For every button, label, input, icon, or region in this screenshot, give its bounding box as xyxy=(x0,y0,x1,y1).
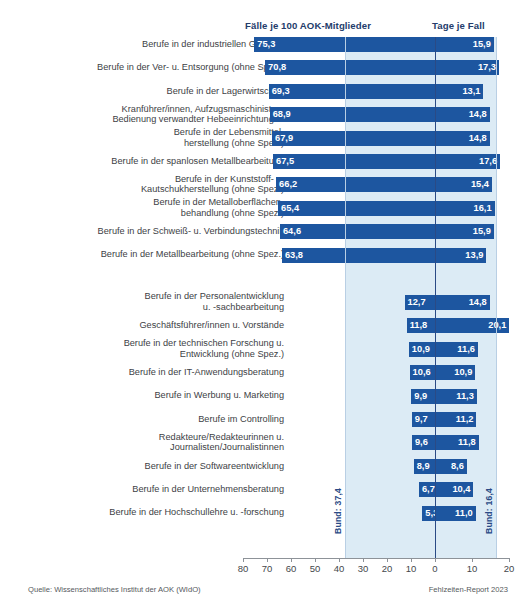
bar-value-tage: 10,4 xyxy=(452,483,470,496)
bar-value-tage: 17,3 xyxy=(478,61,496,74)
bar-value-tage: 11,2 xyxy=(456,413,474,426)
bar-value-faelle: 69,3 xyxy=(272,85,290,98)
category-label: Berufe in der Hochschullehre u. -forschu… xyxy=(109,507,284,518)
axis-tick xyxy=(291,558,292,562)
bar-value-faelle: 11,8 xyxy=(410,319,428,332)
axis-tick-label: 70 xyxy=(262,563,273,574)
category-label: Berufe in der Metalloberflächen- behandl… xyxy=(153,197,284,218)
axis-tick xyxy=(472,558,473,562)
bar-faelle xyxy=(282,248,435,263)
x-axis-line xyxy=(243,558,509,559)
header-left-title: Fälle je 100 AOK-Mitglieder xyxy=(245,20,371,31)
bar-value-faelle: 63,8 xyxy=(285,249,303,262)
bar-value-faelle: 64,6 xyxy=(283,225,301,238)
bar-value-faelle: 70,8 xyxy=(268,61,286,74)
axis-tick-label: 20 xyxy=(382,563,393,574)
bund-tage-label: Bund: 16,4 xyxy=(484,488,494,534)
axis-tick xyxy=(387,558,388,562)
bar-value-faelle: 8,9 xyxy=(417,460,430,473)
bar-value-faelle: 10,9 xyxy=(412,343,430,356)
bund-faelle-line xyxy=(345,37,346,558)
bar-value-faelle: 9,6 xyxy=(415,436,428,449)
axis-tick-label: 30 xyxy=(358,563,369,574)
bar-value-tage: 13,1 xyxy=(462,85,480,98)
axis-tick xyxy=(267,558,268,562)
bar-value-tage: 11,6 xyxy=(457,343,475,356)
category-label: Berufe in der Lebensmittel- herstellung … xyxy=(174,127,284,148)
category-label: Berufe in der Metallbearbeitung (ohne Sp… xyxy=(101,249,284,260)
category-label: Berufe in der Personalentwicklung u. -sa… xyxy=(145,291,284,312)
bar-value-faelle: 67,9 xyxy=(275,132,293,145)
bar-value-faelle: 65,4 xyxy=(281,202,299,215)
bar-value-tage: 15,9 xyxy=(473,38,491,51)
report-note: Fehlzeiten-Report 2023 xyxy=(429,585,508,594)
bar-value-faelle: 66,2 xyxy=(279,178,297,191)
bar-faelle xyxy=(276,177,435,192)
bar-value-tage: 16,1 xyxy=(473,202,491,215)
bund-tage-line xyxy=(496,37,497,558)
axis-tick-label: 0 xyxy=(432,563,437,574)
axis-tick-label: 40 xyxy=(334,563,345,574)
bar-value-tage: 11,0 xyxy=(455,507,473,520)
category-label: Berufe in der Unternehmensberatung xyxy=(132,484,284,495)
bar-value-faelle: 9,7 xyxy=(415,413,428,426)
bar-faelle xyxy=(265,60,435,75)
bar-value-tage: 11,8 xyxy=(458,436,476,449)
axis-tick xyxy=(509,558,510,562)
bar-value-tage: 15,4 xyxy=(471,178,489,191)
category-label: Berufe in der spanlosen Metallbearbeitun… xyxy=(111,156,284,167)
bar-value-tage: 8,6 xyxy=(451,460,464,473)
category-label: Berufe in der Softwareentwicklung xyxy=(145,461,284,472)
bar-value-tage: 14,8 xyxy=(469,108,487,121)
bar-value-faelle: 67,5 xyxy=(276,155,294,168)
bar-value-faelle: 12,7 xyxy=(408,296,426,309)
zero-axis-line xyxy=(435,37,436,558)
axis-tick xyxy=(243,558,244,562)
category-label: Berufe in der Ver- u. Entsorgung (ohne S… xyxy=(97,62,284,73)
bar-faelle xyxy=(272,131,435,146)
axis-tick xyxy=(315,558,316,562)
bar-value-faelle: 68,9 xyxy=(273,108,291,121)
axis-tick-label: 20 xyxy=(504,563,515,574)
category-label: Berufe in der technischen Forschung u. E… xyxy=(124,338,284,359)
bar-value-tage: 20,1 xyxy=(488,319,506,332)
bar-faelle xyxy=(273,154,435,169)
axis-tick xyxy=(363,558,364,562)
category-label: Berufe in der Kunststoff- u. Kautschukhe… xyxy=(141,174,284,195)
bar-value-faelle: 6,7 xyxy=(422,483,435,496)
category-label: Berufe in der Schweiß- u. Verbindungstec… xyxy=(98,226,284,237)
bar-value-tage: 17,6 xyxy=(479,155,497,168)
axis-tick xyxy=(411,558,412,562)
bar-value-faelle: 75,3 xyxy=(257,38,275,51)
category-label: Berufe in der IT-Anwendungsberatung xyxy=(129,367,284,378)
bar-value-tage: 11,3 xyxy=(456,390,474,403)
bar-faelle xyxy=(269,84,435,99)
bar-faelle xyxy=(270,107,435,122)
bar-value-tage: 14,8 xyxy=(469,296,487,309)
bund-faelle-label: Bund: 37,4 xyxy=(333,488,343,534)
bar-faelle xyxy=(280,224,435,239)
header-right-title: Tage je Fall xyxy=(432,20,485,31)
axis-tick-label: 10 xyxy=(467,563,478,574)
category-label: Berufe in der Lagerwirtschaft xyxy=(167,86,284,97)
bar-value-tage: 10,9 xyxy=(454,366,472,379)
category-label: Berufe in Werbung u. Marketing xyxy=(154,390,284,401)
category-label: Geschäftsführer/innen u. Vorstände xyxy=(139,320,284,331)
category-label: Berufe im Controlling xyxy=(198,414,284,425)
axis-tick-label: 80 xyxy=(238,563,249,574)
bar-faelle xyxy=(278,201,435,216)
category-label: Redakteure/Redakteurinnen u. Journaliste… xyxy=(159,432,284,453)
axis-tick xyxy=(339,558,340,562)
bar-value-tage: 15,9 xyxy=(473,225,491,238)
absence-days-chart: Fälle je 100 AOK-Mitglieder Tage je Fall… xyxy=(0,0,520,612)
source-note: Quelle: Wissenschaftliches Institut der … xyxy=(28,585,201,594)
bar-value-faelle: 10,6 xyxy=(413,366,431,379)
axis-tick-label: 50 xyxy=(310,563,321,574)
axis-tick xyxy=(435,558,436,562)
category-label: Kranführer/innen, Aufzugsmaschinisten, B… xyxy=(112,104,284,125)
bar-value-tage: 14,8 xyxy=(469,132,487,145)
axis-tick-label: 10 xyxy=(406,563,417,574)
axis-tick-label: 60 xyxy=(286,563,297,574)
bar-value-tage: 13,9 xyxy=(465,249,483,262)
bar-value-faelle: 9,9 xyxy=(414,390,427,403)
